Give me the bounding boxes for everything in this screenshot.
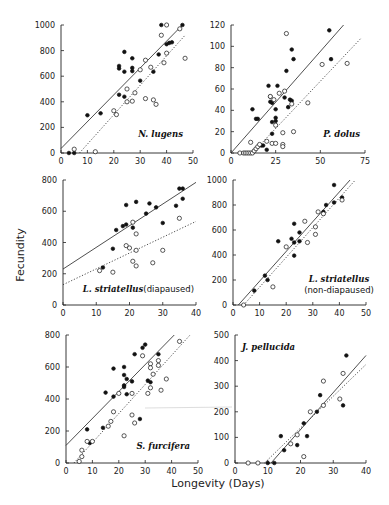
- data-point-filled: [270, 120, 274, 124]
- data-point-filled: [124, 203, 128, 207]
- y-tick-label: 800: [40, 47, 55, 56]
- x-tick-label: 25: [271, 157, 281, 166]
- x-tick-label: 50: [315, 157, 325, 166]
- y-tick-label: 0: [222, 301, 227, 310]
- y-tick-label: 400: [40, 98, 55, 107]
- data-point-open: [161, 248, 165, 252]
- data-point-filled: [341, 404, 345, 408]
- data-point-open: [274, 123, 278, 127]
- data-point-open: [90, 439, 94, 443]
- x-tick-label: 10: [255, 309, 265, 318]
- data-point-filled: [292, 241, 296, 245]
- data-point-open: [313, 225, 317, 229]
- data-point-filled: [131, 226, 135, 230]
- data-point-filled: [279, 434, 283, 438]
- panel-6: 0100200300400500010203040J. pellucida: [214, 331, 371, 476]
- species-label: L. striatellus(diapaused): [82, 284, 194, 294]
- data-point-filled: [170, 40, 174, 44]
- data-point-open: [134, 264, 138, 268]
- x-tick-label: 0: [63, 467, 68, 476]
- data-point-filled: [138, 79, 142, 83]
- data-point-open: [111, 270, 115, 274]
- panel-5: 020040060080001020304050S. furcifera: [45, 331, 203, 476]
- data-point-open: [130, 99, 134, 103]
- data-point-filled: [181, 197, 185, 201]
- data-point-open: [305, 240, 309, 244]
- data-point-open: [131, 220, 135, 224]
- data-point-open: [321, 379, 325, 383]
- data-point-open: [164, 377, 168, 381]
- data-point-filled: [266, 278, 270, 282]
- data-point-filled: [114, 228, 118, 232]
- data-point-open: [112, 109, 116, 113]
- x-tick-label: 75: [360, 157, 370, 166]
- y-tick-label: 0: [55, 459, 60, 468]
- scatter-panels: 0200400600800100001020304050N. lugens020…: [35, 21, 374, 476]
- data-point-filled: [125, 392, 129, 396]
- data-point-filled: [101, 266, 105, 270]
- regression-line-open: [264, 364, 366, 463]
- x-tick-label: 40: [361, 467, 371, 476]
- regression-line-open: [63, 221, 196, 284]
- y-tick-label: 200: [45, 427, 60, 436]
- data-point-open: [151, 372, 155, 376]
- data-point-filled: [274, 107, 278, 111]
- data-point-filled: [174, 204, 178, 208]
- x-tick-label: 10: [91, 309, 101, 318]
- data-point-open: [246, 461, 250, 465]
- x-tick-label: 50: [361, 309, 371, 318]
- data-point-open: [345, 61, 349, 65]
- data-point-filled: [122, 373, 126, 377]
- data-point-open: [271, 285, 275, 289]
- y-tick-label: 800: [45, 331, 60, 340]
- panel-4: 0200400600800100001020304050L. striatell…: [207, 176, 374, 318]
- data-point-open: [249, 140, 253, 144]
- data-point-filled: [295, 443, 299, 447]
- data-point-filled: [251, 107, 255, 111]
- data-point-filled: [292, 57, 296, 61]
- species-label: J. pellucida: [240, 342, 295, 352]
- data-point-filled: [276, 239, 280, 243]
- data-point-open: [256, 461, 260, 465]
- data-point-filled: [302, 422, 306, 426]
- data-point-filled: [123, 50, 127, 54]
- data-point-open: [93, 150, 97, 154]
- data-point-filled: [265, 148, 269, 152]
- data-point-open: [284, 245, 288, 249]
- data-point-filled: [276, 84, 280, 88]
- data-point-filled: [298, 231, 302, 235]
- data-point-filled: [143, 343, 147, 347]
- data-point-open: [109, 419, 113, 423]
- y-tick-label: 40: [215, 106, 225, 115]
- data-point-filled: [283, 96, 287, 100]
- data-point-open: [140, 354, 144, 358]
- y-tick-label: 120: [210, 21, 225, 30]
- data-point-filled: [282, 448, 286, 452]
- data-point-filled: [124, 223, 128, 227]
- data-point-filled: [270, 132, 274, 136]
- data-point-open: [338, 397, 342, 401]
- species-label: S. furcifera: [136, 441, 190, 451]
- y-tick-label: 100: [214, 433, 229, 442]
- data-point-open: [183, 56, 187, 60]
- panel-2: 0204060801001200255075P. dolus: [210, 21, 370, 166]
- data-point-filled: [130, 69, 134, 73]
- data-point-open: [295, 433, 299, 437]
- data-point-filled: [149, 380, 153, 384]
- data-point-filled: [141, 346, 145, 350]
- x-tick-label: 40: [167, 467, 177, 476]
- data-point-open: [130, 391, 134, 395]
- panel-3: 0200400600800010203040L. striatellus(dia…: [42, 176, 201, 318]
- data-point-open: [151, 98, 155, 102]
- data-point-filled: [117, 93, 121, 97]
- data-point-filled: [111, 247, 115, 251]
- data-point-filled: [327, 29, 331, 33]
- data-point-filled: [123, 95, 127, 99]
- y-tick-label: 600: [40, 72, 55, 81]
- data-point-open: [272, 98, 276, 102]
- y-tick-label: 800: [42, 176, 57, 185]
- y-tick-label: 200: [214, 408, 229, 417]
- data-point-open: [290, 102, 294, 106]
- data-point-open: [284, 31, 288, 35]
- y-tick-label: 200: [40, 123, 55, 132]
